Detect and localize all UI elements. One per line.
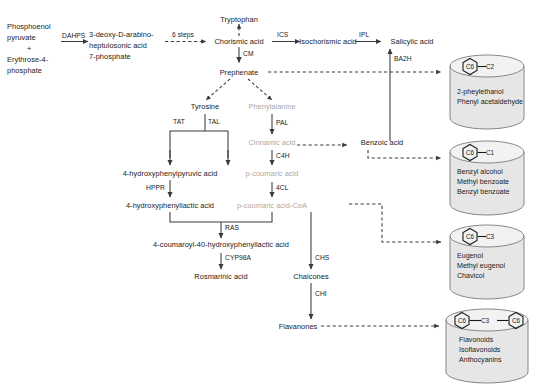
enzyme-label-ipl: IPL [359,31,369,39]
node-flavanones: Flavanones [279,322,318,331]
enzyme-label-chs: CHS [315,254,329,262]
node-chorismic-acid: Chorismic acid [214,37,263,46]
node-tryptophan: Tryptophan [220,15,258,24]
enzyme-label-ras: RAS [225,224,239,232]
ring-label-c6-1: C6 [463,63,477,70]
pathway-diagram: Phosphoenol pyruvate + Erythrose-4- phos… [0,0,544,392]
product-item-c6c3c6-2: Anthocyanins [459,356,502,366]
ring-label-c6-3: C6 [463,233,477,240]
product-item-c6c3-0: Eugenol [457,252,483,262]
node-p-coumaric-acid: p-coumaric acid [246,169,299,178]
node-erythrose-4: Erythrose-4- [7,55,48,64]
node-benzoic-acid: Benzoic acid [361,138,404,147]
ring-label-c1: C1 [486,149,494,156]
product-item-c6c2-0: 2-pheylethanol [457,88,504,98]
enzyme-label-chi: CHI [315,290,327,298]
node-hydroxyphenylpyruvic-acid: 4-hydroxyphenylpyruvic acid [123,169,218,178]
ring-label-c6-4b: C6 [509,317,523,324]
product-item-c6c3c6-0: Flavonoids [459,336,493,346]
node-plus-sign: + [27,44,31,53]
enzyme-label-tat: TAT [173,118,185,126]
ring-label-c3-4: C3 [481,317,489,324]
ring-label-c3: C3 [486,233,494,240]
ring-label-c2: C2 [486,63,494,70]
product-item-c6c1-0: Benzyl alcohol [457,168,503,178]
enzyme-label-6steps: 6 steps [172,31,194,39]
product-item-c6c1-1: Methyl benzoate [457,178,509,188]
enzyme-label-ba2h: BA2H [394,55,412,63]
enzyme-label-hppr: HPPR [146,184,165,192]
product-item-c6c1-2: Benzyl benzoate [457,188,509,198]
node-phenylalanine: Phenylalanine [248,102,295,111]
product-item-c6c2-1: Phenyl acetaldehyde [457,98,523,108]
enzyme-label-tal: TAL [208,118,220,126]
node-dahp-line3: 7-phosphate [89,52,131,61]
node-isochorismic-acid: Isochorismic acid [299,37,357,46]
node-dahp-line1: 3-deoxy-D-arabino- [89,30,154,39]
node-coumaroyl-hydroxyphenyllactic-acid: 4-coumaroyl-40-hydroxyphenyllactic acid [153,240,289,249]
node-salicylic-acid: Salicylic acid [390,37,433,46]
node-pyruvate: pyruvate [7,33,36,42]
node-p-coumaric-acid-coa: p-coumaric acid-CoA [237,201,307,210]
enzyme-label-cyp98a: CYP98A [225,254,251,262]
enzyme-label-cm: CM [243,50,254,58]
enzyme-label-dahps: DAHPS [62,32,85,40]
enzyme-label-c4h: C4H [276,152,290,160]
ring-label-c6-2: C6 [463,149,477,156]
product-item-c6c3-1: Methyl eugenol [457,262,505,272]
node-prephenate: Prephenate [220,68,259,77]
node-rosmarinic-acid: Rosmarinic acid [194,272,247,281]
node-dahp-line2: heptulosonic acid [89,41,147,50]
node-tyrosine: Tyrosine [191,102,219,111]
ring-label-c6-4a: C6 [455,317,469,324]
node-cinnamic-acid: Cinnamic acid [248,138,295,147]
enzyme-label-4cl: 4CL [276,184,288,192]
node-phosphoenol: Phosphoenol [7,22,51,31]
node-phosphate: phosphate [7,66,42,75]
node-hydroxyphenyllactic-acid: 4-hydroxyphenyllactic acid [126,201,214,210]
node-chalcones: Chalcones [293,272,328,281]
enzyme-label-pal: PAL [276,119,288,127]
enzyme-label-ics: ICS [277,31,288,39]
product-item-c6c3c6-1: Isoflavonoids [459,346,500,356]
product-item-c6c3-2: Chavicol [457,272,484,282]
